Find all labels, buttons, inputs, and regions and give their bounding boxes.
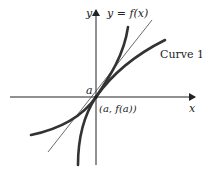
point-label: (a, f(a)) xyxy=(99,103,137,114)
x-axis-label: x xyxy=(189,102,196,115)
curve-1-label: Curve 1 xyxy=(160,48,202,61)
curve-1 xyxy=(31,40,165,135)
point-a-label: a xyxy=(86,84,93,97)
y-axis-label: y xyxy=(85,7,93,20)
tangent-point xyxy=(94,95,98,99)
function-label: y = f(x) xyxy=(106,7,148,20)
tangent-line xyxy=(48,20,152,152)
tangent-diagram: y x y = f(x) Curve 1 a (a, f(a)) xyxy=(0,0,202,177)
